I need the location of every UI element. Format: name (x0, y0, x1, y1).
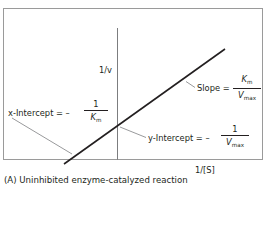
y-intercept-prefix: y-Intercept = – (148, 133, 210, 143)
slope-denominator: Vmax (238, 89, 256, 102)
slope-numerator: Km (242, 75, 253, 88)
slope-numerator-sub: m (247, 79, 252, 85)
y-intercept-numerator: 1 (232, 125, 237, 135)
x-axis-label-text: 1/[S] (195, 165, 215, 175)
y-intercept-denominator: Vmax (226, 136, 244, 149)
x-intercept-annotation: x-Intercept = – (8, 109, 70, 117)
x-intercept-denominator: Km (91, 111, 102, 124)
figure-caption: (A) Uninhibited enzyme-catalyzed reactio… (4, 176, 188, 185)
slope-annotation: Slope = (197, 84, 230, 92)
y-intercept-leader-line (120, 127, 146, 138)
x-intercept-fraction: 1 Km (84, 100, 108, 124)
y-intercept-annotation: y-Intercept = – (148, 134, 210, 142)
x-intercept-denominator-sub: m (96, 117, 101, 123)
y-intercept-denominator-sub: max (232, 142, 244, 148)
slope-denominator-sub: max (244, 95, 256, 101)
y-intercept-fraction: 1 Vmax (221, 125, 249, 149)
slope-leader-line (186, 82, 195, 88)
x-intercept-numerator: 1 (93, 100, 98, 110)
x-intercept-leader-line (12, 118, 72, 154)
y-axis-label: 1/v (99, 66, 112, 74)
x-intercept-prefix: x-Intercept = – (8, 108, 70, 118)
slope-prefix: Slope = (197, 83, 230, 93)
x-axis-label: 1/[S] (195, 166, 215, 174)
slope-fraction: Km Vmax (233, 75, 261, 101)
y-axis-label-text: 1/v (99, 65, 112, 75)
